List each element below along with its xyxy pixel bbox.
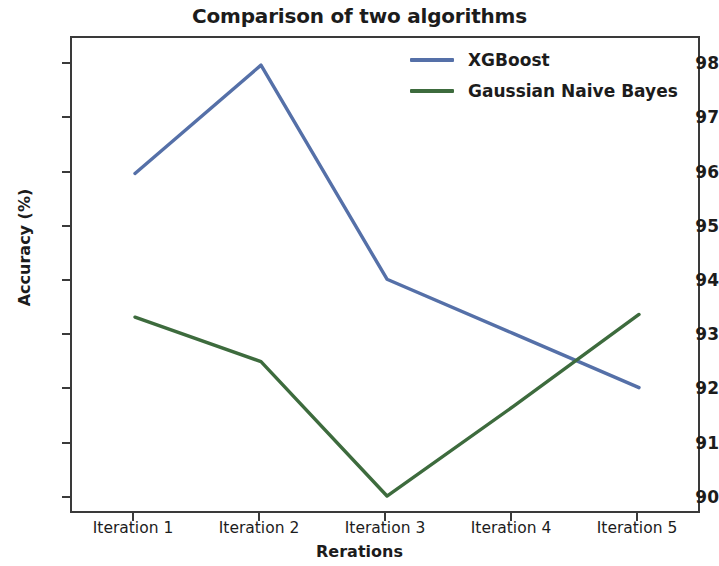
y-tick-mark (62, 225, 70, 227)
legend-color-swatch (410, 58, 454, 62)
x-tick-mark (510, 513, 512, 521)
y-tick-mark (62, 171, 70, 173)
y-tick-mark (62, 333, 70, 335)
y-tick-label: 97 (673, 107, 719, 127)
y-tick-mark (62, 442, 70, 444)
y-tick-label: 95 (673, 216, 719, 236)
x-tick-label: Iteration 5 (597, 519, 678, 537)
x-tick-label: Iteration 4 (471, 519, 552, 537)
x-tick-mark (258, 513, 260, 521)
y-tick-label: 92 (673, 378, 719, 398)
y-tick-label: 91 (673, 433, 719, 453)
y-tick-mark (62, 496, 70, 498)
legend-label: XGBoost (468, 50, 550, 70)
x-tick-mark (384, 513, 386, 521)
chart-title: Comparison of two algorithms (0, 4, 719, 28)
plot-area (70, 36, 700, 513)
x-tick-label: Iteration 1 (93, 519, 174, 537)
y-tick-mark (62, 279, 70, 281)
x-tick-label: Iteration 2 (219, 519, 300, 537)
x-tick-mark (132, 513, 134, 521)
x-axis-label: Rerations (0, 542, 719, 561)
y-tick-mark (62, 116, 70, 118)
chart-legend: XGBoostGaussian Naive Bayes (410, 44, 685, 106)
legend-item[interactable]: XGBoost (410, 44, 685, 75)
x-tick-label: Iteration 3 (345, 519, 426, 537)
y-tick-label: 94 (673, 270, 719, 290)
legend-item[interactable]: Gaussian Naive Bayes (410, 75, 685, 106)
y-tick-label: 96 (673, 162, 719, 182)
plot-lines (72, 38, 702, 515)
legend-label: Gaussian Naive Bayes (468, 81, 678, 101)
x-tick-mark (636, 513, 638, 521)
y-tick-mark (62, 387, 70, 389)
series-line-0 (135, 65, 639, 388)
series-line-1 (135, 314, 639, 496)
y-tick-label: 90 (673, 487, 719, 507)
y-tick-label: 93 (673, 324, 719, 344)
y-axis-label: Accuracy (%) (15, 168, 34, 328)
legend-color-swatch (410, 89, 454, 93)
y-tick-mark (62, 62, 70, 64)
chart-figure: Comparison of two algorithms 90919293949… (0, 0, 719, 566)
